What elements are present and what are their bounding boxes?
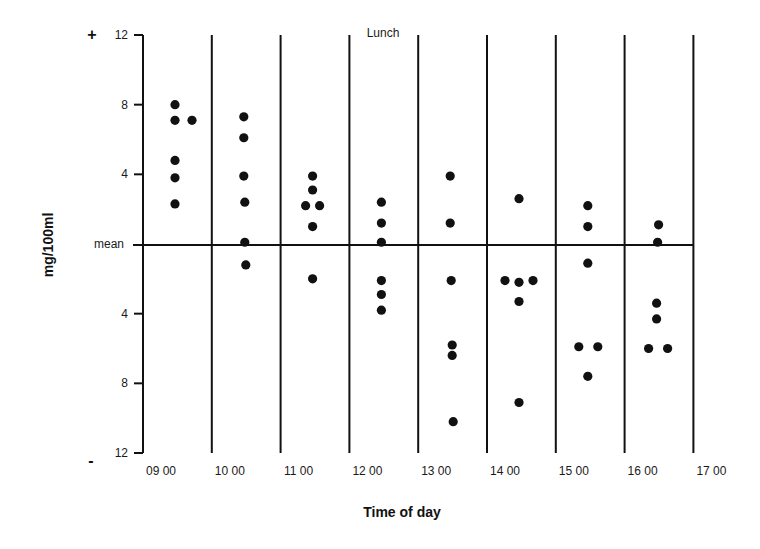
data-point <box>170 199 179 208</box>
data-point <box>239 133 248 142</box>
y-tick-label: 4 <box>121 307 128 321</box>
x-tick-label: 09 00 <box>146 464 176 478</box>
negative-sign: - <box>88 452 93 469</box>
positive-sign: + <box>87 26 96 43</box>
data-point <box>654 220 663 229</box>
data-point <box>514 398 523 407</box>
data-point <box>377 238 386 247</box>
y-tick-label: 12 <box>115 446 129 460</box>
x-tick-label: 13 00 <box>421 464 451 478</box>
data-point <box>448 340 457 349</box>
data-point <box>315 201 324 210</box>
data-point <box>377 198 386 207</box>
data-point <box>583 259 592 268</box>
x-tick-label: 10 00 <box>215 464 245 478</box>
data-point <box>170 116 179 125</box>
x-tick-label: 15 00 <box>559 464 589 478</box>
data-point <box>644 344 653 353</box>
data-point <box>653 238 662 247</box>
data-point <box>449 417 458 426</box>
data-point <box>652 299 661 308</box>
data-point <box>170 100 179 109</box>
x-axis-title: Time of day <box>363 504 441 520</box>
data-point <box>514 194 523 203</box>
x-tick-label: 16 00 <box>628 464 658 478</box>
data-point <box>170 156 179 165</box>
data-point <box>574 342 583 351</box>
data-point <box>663 344 672 353</box>
data-point <box>583 201 592 210</box>
x-tick-label: 12 00 <box>352 464 382 478</box>
y-tick-label: 12 <box>115 28 129 42</box>
data-point <box>528 276 537 285</box>
y-tick-label: 4 <box>121 167 128 181</box>
data-point <box>239 112 248 121</box>
data-point <box>377 276 386 285</box>
data-point <box>308 171 317 180</box>
data-point <box>447 276 456 285</box>
lunch-annotation: Lunch <box>367 26 400 40</box>
data-point <box>377 219 386 228</box>
data-point <box>500 276 509 285</box>
data-point <box>308 185 317 194</box>
data-point <box>240 198 249 207</box>
data-point <box>446 171 455 180</box>
y-tick-label: 8 <box>121 98 128 112</box>
data-point <box>514 278 523 287</box>
y-axis-title: mg/100ml <box>40 213 56 278</box>
x-tick-label: 17 00 <box>696 464 726 478</box>
data-point <box>514 297 523 306</box>
x-tick-label: 11 00 <box>284 464 313 478</box>
data-point <box>301 201 310 210</box>
data-point <box>377 290 386 299</box>
data-point <box>448 351 457 360</box>
x-axis-tick-labels: 09 0010 0011 0012 0013 0014 0015 0016 00… <box>146 464 727 478</box>
data-point <box>239 171 248 180</box>
data-point <box>583 372 592 381</box>
data-point <box>240 238 249 247</box>
data-point <box>377 306 386 315</box>
data-points <box>170 100 672 426</box>
data-point <box>241 260 250 269</box>
scatter-chart: mg/100ml + - Lunch Time of day 1284mean4… <box>0 0 760 549</box>
data-point <box>308 274 317 283</box>
data-point <box>170 173 179 182</box>
data-point <box>593 342 602 351</box>
y-tick-label: 8 <box>121 376 128 390</box>
data-point <box>308 222 317 231</box>
data-point <box>652 314 661 323</box>
data-point <box>583 222 592 231</box>
x-tick-label: 14 00 <box>490 464 520 478</box>
mean-label: mean <box>94 237 124 251</box>
data-point <box>446 219 455 228</box>
data-point <box>187 116 196 125</box>
